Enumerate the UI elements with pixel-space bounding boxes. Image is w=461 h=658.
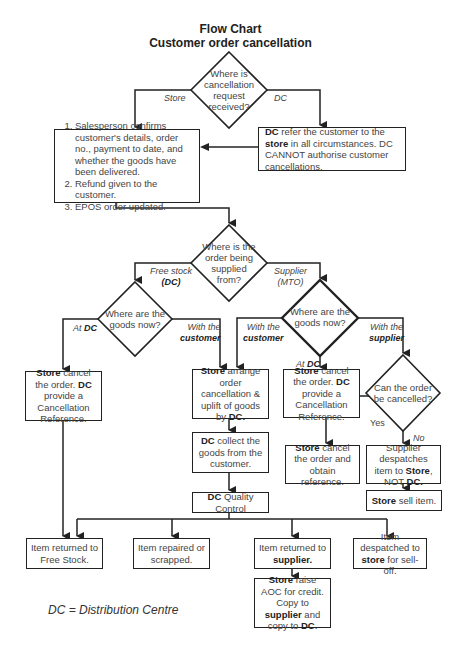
store-cancel-left-box: Store cancel the order. DC provide a Can…	[25, 371, 102, 421]
repaired-scrapped-box: Item repaired or scrapped.	[133, 538, 210, 569]
dc-quality-control-box: DC Quality Control	[192, 492, 269, 513]
despatched-store-box: Item despatched to store for sell-off.	[353, 538, 427, 569]
dc-refer-box: DC refer the customer to the store in al…	[258, 127, 406, 171]
decision-where-received-text: Where is cancellation request received?	[199, 68, 259, 112]
store-arrange-box: Store arrange order cancellation & uplif…	[192, 369, 269, 419]
decision-where-supplied-text: Where is the order being supplied from?	[199, 241, 259, 285]
branch-label-supplier-mto: Supplier(MTO)	[274, 266, 307, 288]
store-sell-item-box: Store sell item.	[366, 490, 442, 511]
branch-label-with-customer-right: With thecustomer	[243, 322, 284, 344]
legend: DC = Distribution Centre	[48, 603, 178, 617]
returned-supplier-box: Item returned to supplier.	[254, 538, 331, 569]
decision-goods-now-supplier-text: Where are the goods now?	[288, 303, 352, 331]
supplier-despatches-box: Supplier despatches item to Store, NOT D…	[366, 445, 441, 484]
store-step-1: Salesperson confirms customer's details,…	[75, 120, 196, 178]
dc-collect-box: DC collect the goods from the customer.	[192, 432, 269, 473]
branch-label-with-customer-left: With thecustomer	[180, 322, 221, 344]
store-steps-box: Salesperson confirms customer's details,…	[54, 129, 200, 203]
store-step-3: EPOS order updated.	[75, 201, 196, 213]
returned-free-stock-box: Item returned to Free Stock.	[26, 538, 103, 569]
store-aoc-box: Store raise AOC for credit. Copy to supp…	[254, 578, 331, 628]
branch-label-yes: Yes	[370, 418, 385, 429]
decision-goods-now-free-stock-text: Where are the goods now?	[103, 305, 167, 333]
branch-label-free-stock: Free stock(DC)	[150, 266, 192, 288]
decision-can-cancel-text: Can the order be cancelled?	[371, 379, 435, 407]
branch-label-with-supplier: With thesupplier	[369, 322, 404, 344]
branch-label-store: Store	[164, 93, 186, 104]
store-step-2: Refund given to the customer.	[75, 178, 196, 201]
store-cancel-right-box: Store cancel the order. DC provide a Can…	[283, 369, 360, 418]
branch-label-dc: DC	[274, 93, 287, 104]
store-cancel-obtain-box: Store cancel the order and obtain refere…	[285, 445, 360, 484]
branch-label-at-dc-left: At DC	[73, 323, 97, 334]
